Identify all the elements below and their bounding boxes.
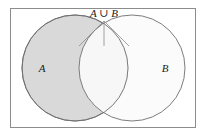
set-a-label: A [38,62,46,74]
set-b-label: B [162,62,169,74]
union-label: A ∪ B [89,7,118,19]
venn-diagram-canvas: A ∪ B A B [0,0,207,137]
set-b-circle [79,15,185,121]
venn-diagram-figure: A ∪ B A B [0,0,207,137]
